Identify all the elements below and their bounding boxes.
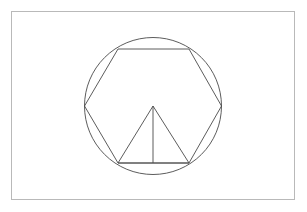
figure-canvas <box>0 0 307 212</box>
geometry-diagram <box>0 0 307 212</box>
